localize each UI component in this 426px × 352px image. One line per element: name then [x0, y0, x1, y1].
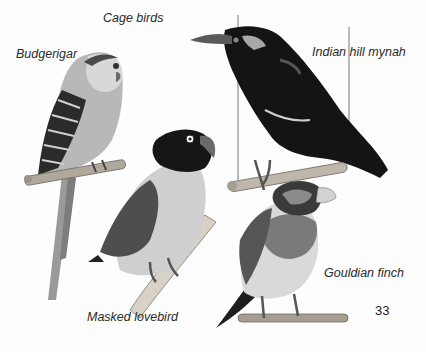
masked-lovebird-illustration: [88, 130, 216, 319]
gouldian-finch-illustration: [216, 181, 348, 328]
page-number: 33: [375, 303, 389, 318]
label-gouldian-finch: Gouldian finch: [324, 266, 404, 280]
finch-perch: [238, 314, 348, 322]
budgerigar-illustration: [24, 52, 126, 300]
label-masked-lovebird: Masked lovebird: [87, 310, 178, 324]
label-indian-hill-mynah: Indian hill mynah: [312, 45, 406, 59]
page-title: Cage birds: [103, 11, 163, 25]
book-page: Cage birds Budgerigar Indian hill mynah …: [0, 0, 426, 352]
label-budgerigar: Budgerigar: [16, 47, 77, 61]
